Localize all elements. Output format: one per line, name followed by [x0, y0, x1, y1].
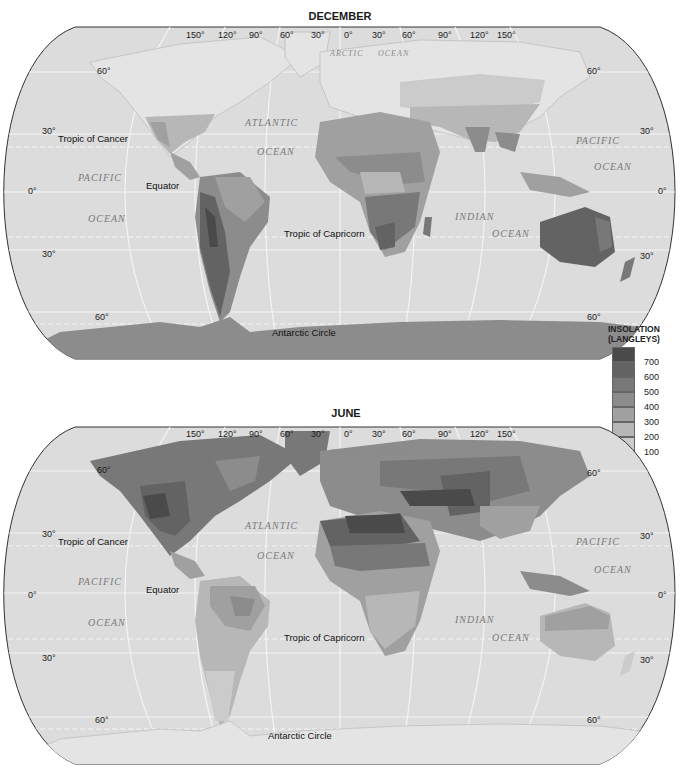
legend-label-500: 500: [644, 387, 659, 397]
tropic-of-capricorn-label: Tropic of Capricorn: [284, 632, 364, 643]
antarctic-circle-label: Antarctic Circle: [272, 327, 336, 338]
svg-text:120°: 120°: [470, 429, 489, 439]
svg-text:120°: 120°: [218, 30, 237, 40]
svg-text:OCEAN: OCEAN: [378, 49, 409, 58]
svg-text:ATLANTIC: ATLANTIC: [244, 520, 298, 531]
svg-text:30°: 30°: [311, 30, 325, 40]
svg-text:PACIFIC: PACIFIC: [77, 172, 122, 183]
svg-text:OCEAN: OCEAN: [492, 228, 530, 239]
svg-text:30°: 30°: [42, 249, 56, 259]
legend-label-600: 600: [644, 372, 659, 382]
svg-text:OCEAN: OCEAN: [378, 448, 409, 457]
june-map: 150° 120° 90° 60° 30° 0° 30° 60° 90° 120…: [0, 421, 681, 766]
svg-text:30°: 30°: [640, 251, 654, 261]
svg-text:60°: 60°: [280, 429, 294, 439]
legend-swatch-4: [612, 392, 635, 407]
svg-text:30°: 30°: [640, 531, 654, 541]
svg-text:60°: 60°: [95, 312, 109, 322]
svg-text:INDIAN: INDIAN: [454, 211, 495, 222]
svg-text:ATLANTIC: ATLANTIC: [244, 117, 298, 128]
svg-text:30°: 30°: [640, 655, 654, 665]
june-map-title: JUNE: [296, 407, 396, 419]
tropic-of-cancer-label: Tropic of Cancer: [58, 133, 128, 144]
svg-text:PACIFIC: PACIFIC: [575, 135, 620, 146]
svg-text:150°: 150°: [497, 30, 516, 40]
svg-text:0°: 0°: [658, 590, 667, 600]
svg-text:90°: 90°: [249, 429, 263, 439]
svg-text:30°: 30°: [42, 653, 56, 663]
svg-text:0°: 0°: [28, 590, 37, 600]
svg-text:60°: 60°: [402, 30, 416, 40]
tropic-of-cancer-label: Tropic of Cancer: [58, 536, 128, 547]
svg-text:60°: 60°: [97, 465, 111, 475]
svg-text:ARCTIC: ARCTIC: [329, 49, 364, 58]
svg-text:60°: 60°: [402, 429, 416, 439]
svg-text:0°: 0°: [344, 429, 353, 439]
svg-text:120°: 120°: [470, 30, 489, 40]
legend-label-700: 700: [644, 357, 659, 367]
svg-text:60°: 60°: [587, 66, 601, 76]
svg-text:150°: 150°: [186, 30, 205, 40]
svg-text:30°: 30°: [372, 429, 386, 439]
svg-text:150°: 150°: [497, 429, 516, 439]
svg-text:60°: 60°: [587, 715, 601, 725]
equator-label: Equator: [146, 180, 179, 191]
svg-text:0°: 0°: [28, 186, 37, 196]
svg-text:120°: 120°: [218, 429, 237, 439]
svg-text:90°: 90°: [438, 30, 452, 40]
svg-text:60°: 60°: [587, 468, 601, 478]
svg-text:0°: 0°: [658, 186, 667, 196]
equator-label: Equator: [146, 584, 179, 595]
svg-text:OCEAN: OCEAN: [257, 146, 295, 157]
svg-text:0°: 0°: [344, 30, 353, 40]
svg-text:30°: 30°: [372, 30, 386, 40]
svg-text:OCEAN: OCEAN: [88, 213, 126, 224]
legend-swatch-1: [612, 347, 635, 362]
svg-text:PACIFIC: PACIFIC: [77, 576, 122, 587]
svg-text:60°: 60°: [587, 312, 601, 322]
legend-swatch-2: [612, 362, 635, 377]
tropic-of-capricorn-label: Tropic of Capricorn: [284, 228, 364, 239]
svg-text:ARCTIC: ARCTIC: [329, 448, 364, 457]
svg-text:90°: 90°: [438, 429, 452, 439]
svg-text:OCEAN: OCEAN: [594, 161, 632, 172]
svg-text:60°: 60°: [95, 715, 109, 725]
december-map-title: DECEMBER: [290, 10, 390, 22]
antarctic-circle-label: Antarctic Circle: [268, 730, 332, 741]
svg-text:OCEAN: OCEAN: [492, 632, 530, 643]
svg-text:90°: 90°: [249, 30, 263, 40]
december-map: 150° 120° 90° 60° 30° 0° 30° 60° 90° 120…: [0, 22, 681, 362]
legend-swatch-3: [612, 377, 635, 392]
legend-label-400: 400: [644, 402, 659, 412]
svg-text:OCEAN: OCEAN: [88, 617, 126, 628]
svg-text:30°: 30°: [42, 126, 56, 136]
svg-text:60°: 60°: [280, 30, 294, 40]
svg-text:60°: 60°: [97, 66, 111, 76]
svg-text:PACIFIC: PACIFIC: [575, 536, 620, 547]
svg-text:150°: 150°: [186, 429, 205, 439]
svg-text:30°: 30°: [640, 126, 654, 136]
legend-title: INSOLATION (LANGLEYS): [608, 324, 681, 344]
svg-text:INDIAN: INDIAN: [454, 614, 495, 625]
svg-text:30°: 30°: [42, 529, 56, 539]
svg-text:OCEAN: OCEAN: [257, 550, 295, 561]
svg-text:30°: 30°: [311, 429, 325, 439]
svg-text:OCEAN: OCEAN: [594, 564, 632, 575]
legend-swatch-5: [612, 407, 635, 422]
